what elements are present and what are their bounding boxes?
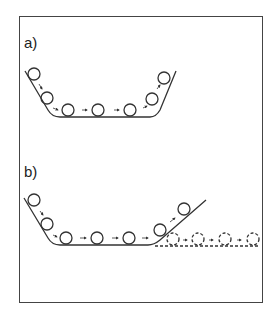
trough-a (25, 71, 176, 117)
ghost-ball (247, 233, 259, 245)
ball (123, 232, 135, 244)
ghost-ball (192, 233, 204, 245)
dashed-continuation (155, 233, 260, 246)
ball (41, 218, 53, 230)
ball (41, 92, 53, 104)
panel-b-diagram (24, 194, 260, 246)
ball (154, 224, 166, 236)
panel-a-diagram (25, 68, 176, 117)
ball (28, 194, 40, 206)
ball (91, 232, 103, 244)
ghost-ball (219, 233, 231, 245)
ball (60, 232, 72, 244)
ball (178, 203, 190, 215)
ball (146, 93, 158, 105)
ball (92, 104, 104, 116)
ball (158, 72, 170, 84)
diagram-canvas (0, 0, 280, 319)
ghost-ball (167, 233, 179, 245)
ball (62, 104, 74, 116)
ball (28, 68, 40, 80)
ball (124, 104, 136, 116)
